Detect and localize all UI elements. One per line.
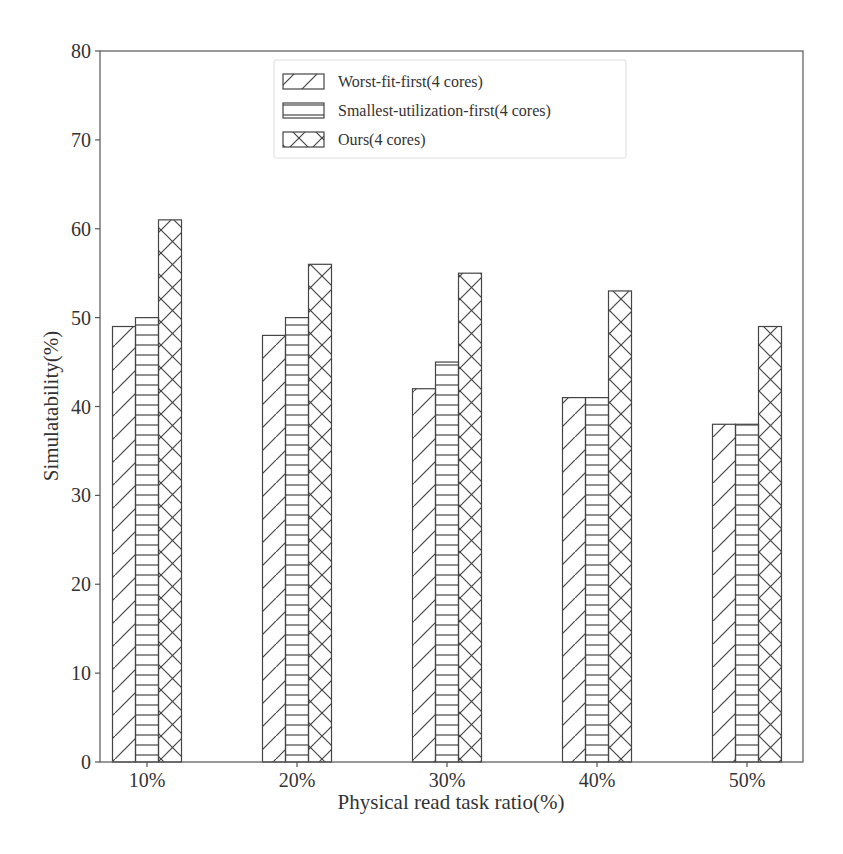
bars-group xyxy=(113,220,782,762)
bar-crosshatch-20pct xyxy=(309,264,332,762)
bar-horizontal-20pct xyxy=(286,318,309,762)
legend-label: Worst-fit-first(4 cores) xyxy=(338,73,483,91)
y-tick-label: 50 xyxy=(71,307,91,329)
y-axis-label: Simulatability(%) xyxy=(39,331,63,481)
y-tick-label: 0 xyxy=(81,751,91,773)
legend-label: Smallest-utilization-first(4 cores) xyxy=(338,102,551,120)
x-tick-label: 10% xyxy=(129,769,166,791)
y-tick-label: 60 xyxy=(71,218,91,240)
y-tick-label: 40 xyxy=(71,396,91,418)
legend-swatch-horizontal xyxy=(283,103,324,118)
x-axis-label: Physical read task ratio(%) xyxy=(338,790,565,814)
bar-chart: 0102030405060708010%20%30%40%50% Worst-f… xyxy=(0,0,843,854)
y-tick-label: 20 xyxy=(71,573,91,595)
legend-swatch-crosshatch xyxy=(283,132,324,147)
x-tick-label: 30% xyxy=(429,769,466,791)
y-tick-label: 30 xyxy=(71,484,91,506)
legend: Worst-fit-first(4 cores)Smallest-utiliza… xyxy=(274,60,626,158)
bar-horizontal-30pct xyxy=(436,362,459,762)
legend-label: Ours(4 cores) xyxy=(338,131,426,149)
x-tick-label: 50% xyxy=(729,769,766,791)
bar-horizontal-10pct xyxy=(136,318,159,762)
y-tick-label: 10 xyxy=(71,662,91,684)
bar-diagonal-30pct xyxy=(413,389,436,762)
bar-diagonal-40pct xyxy=(563,398,586,762)
y-tick-label: 70 xyxy=(71,129,91,151)
bar-diagonal-50pct xyxy=(713,424,736,762)
bar-horizontal-50pct xyxy=(736,424,759,762)
bar-diagonal-20pct xyxy=(263,335,286,762)
bar-crosshatch-30pct xyxy=(459,273,482,762)
bar-crosshatch-50pct xyxy=(759,327,782,762)
bar-diagonal-10pct xyxy=(113,327,136,762)
x-tick-label: 20% xyxy=(279,769,316,791)
legend-swatch-diagonal xyxy=(283,74,324,89)
x-tick-label: 40% xyxy=(579,769,616,791)
y-tick-label: 80 xyxy=(71,40,91,62)
bar-crosshatch-10pct xyxy=(159,220,182,762)
bar-horizontal-40pct xyxy=(586,398,609,762)
bar-crosshatch-40pct xyxy=(609,291,632,762)
